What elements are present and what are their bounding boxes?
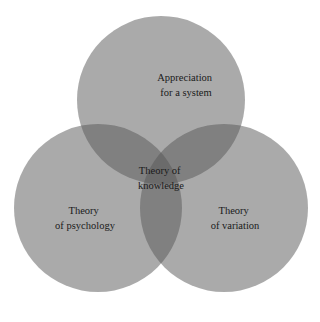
label-line: knowledge <box>138 180 184 191</box>
venn-diagram: Appreciation for a system Theory of know… <box>0 0 320 322</box>
label-line: for a system <box>160 87 211 98</box>
label-line: Theory <box>219 205 250 216</box>
label-line: of variation <box>211 220 260 231</box>
label-line: of psychology <box>55 220 116 231</box>
label-line: Theory of <box>139 165 181 176</box>
label-line: Theory <box>69 205 100 216</box>
circles-group <box>14 16 308 292</box>
label-line: Appreciation <box>157 72 213 83</box>
